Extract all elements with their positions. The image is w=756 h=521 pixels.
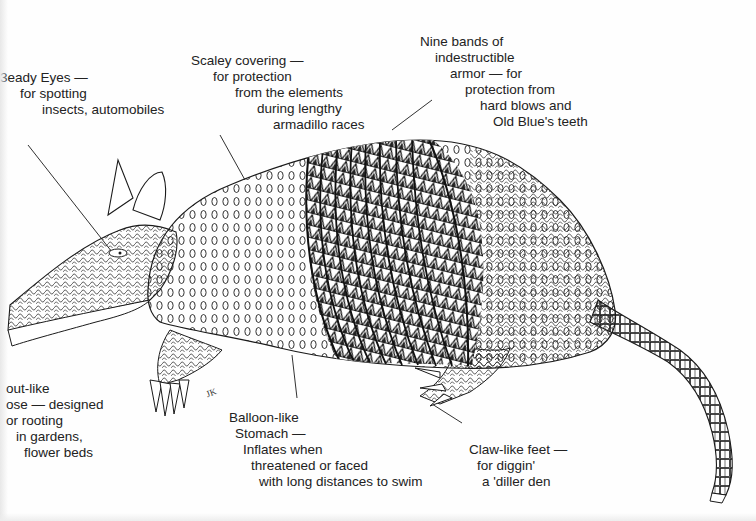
label-line: Old Blue's teeth (420, 114, 588, 130)
leader-eyes (28, 145, 112, 252)
head (8, 160, 177, 346)
label-line: Scaley covering — (191, 53, 365, 69)
label-line: 3eady Eyes — (0, 70, 164, 86)
label-line: protection from (420, 82, 588, 98)
ear-right (133, 172, 166, 220)
label-line: for diggin' (469, 458, 567, 474)
label-line: during lengthy (191, 101, 365, 117)
label-snout: out-like ose — designed or rooting in ga… (6, 381, 104, 461)
label-line: hard blows and (420, 98, 588, 114)
label-line: out-like (6, 381, 104, 397)
label-bands: Nine bands of indestructible armor — for… (420, 34, 588, 130)
leader-feet (432, 404, 462, 423)
scan-bottom-shadow (0, 513, 756, 521)
ear-left (108, 160, 133, 215)
label-feet: Claw-like feet — for diggin' a 'diller d… (469, 442, 567, 490)
label-line: Balloon-like (229, 410, 423, 426)
label-line: with long distances to swim (229, 474, 423, 490)
label-eyes: 3eady Eyes — for spotting insects, autom… (0, 70, 164, 118)
label-line: Nine bands of (420, 34, 588, 50)
scan-edge-shadow (0, 0, 8, 521)
label-scales: Scaley covering — for protection from th… (191, 53, 365, 133)
label-stomach: Balloon-like Stomach — Inflates when thr… (229, 410, 423, 490)
label-line: ose — designed (6, 397, 104, 413)
leader-stomach (292, 355, 297, 398)
eye (109, 249, 127, 257)
label-line: indestructible (420, 50, 588, 66)
label-line: Inflates when (229, 442, 423, 458)
label-line: a 'diller den (469, 474, 567, 490)
diagram-canvas: JK 3eady Eyes — for spotting insects, au… (0, 0, 756, 521)
label-line: insects, automobiles (0, 102, 164, 118)
label-line: for protection (191, 69, 365, 85)
label-line: armor — for (420, 66, 588, 82)
label-line: from the elements (191, 85, 365, 101)
label-line: in gardens, (6, 429, 104, 445)
label-line: flower beds (6, 445, 104, 461)
label-line: armadillo races (191, 117, 365, 133)
artist-signature: JK (205, 386, 218, 399)
label-line: for spotting (0, 86, 164, 102)
leader-scales (220, 135, 245, 180)
label-line: Claw-like feet — (469, 442, 567, 458)
front-leg (150, 330, 222, 416)
label-line: threatened or faced (229, 458, 423, 474)
label-line: or rooting (6, 413, 104, 429)
label-line: Stomach — (229, 426, 423, 442)
